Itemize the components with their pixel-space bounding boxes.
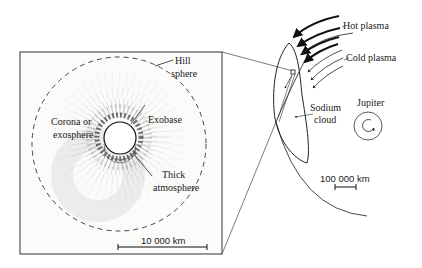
overview-panel: Hot plasma Cold plasma Sodium cloud Jupi… — [274, 16, 397, 216]
jupiter: Jupiter — [354, 97, 385, 140]
inset-scale-label: 10 000 km — [141, 235, 185, 246]
zoom-line-top — [222, 52, 293, 71]
overview-scale-bar: 100 000 km — [320, 173, 370, 190]
label-cold-plasma: Cold plasma — [346, 52, 397, 63]
label-exosphere: exosphere — [53, 129, 94, 140]
jupiter-rotation-icon — [363, 119, 374, 131]
jupiter-circle — [354, 112, 382, 140]
label-thick: Thick — [162, 169, 185, 180]
label-jupiter: Jupiter — [357, 97, 385, 108]
label-hill: Hill — [175, 55, 191, 66]
io-orbit-arc — [276, 122, 367, 216]
sodium-cloud-outline — [274, 43, 309, 163]
label-sodium: Sodium — [310, 102, 341, 113]
label-sphere: sphere — [171, 68, 198, 79]
io-sodium-cloud-diagram: Hill sphere Corona or exosphere Exobase … — [0, 0, 422, 268]
label-hot-plasma: Hot plasma — [343, 20, 389, 31]
inset-panel: Hill sphere Corona or exosphere Exobase … — [20, 52, 222, 254]
zoom-line-bottom — [222, 122, 276, 254]
label-corona: Corona or — [51, 116, 92, 127]
io-marker — [291, 70, 295, 74]
overview-scale-label: 100 000 km — [320, 173, 370, 184]
io-body — [104, 122, 136, 154]
hot-plasma-arrows — [294, 16, 340, 62]
label-atmosphere: atmosphere — [153, 182, 200, 193]
label-exobase: Exobase — [148, 114, 182, 125]
label-cloud: cloud — [314, 114, 336, 125]
